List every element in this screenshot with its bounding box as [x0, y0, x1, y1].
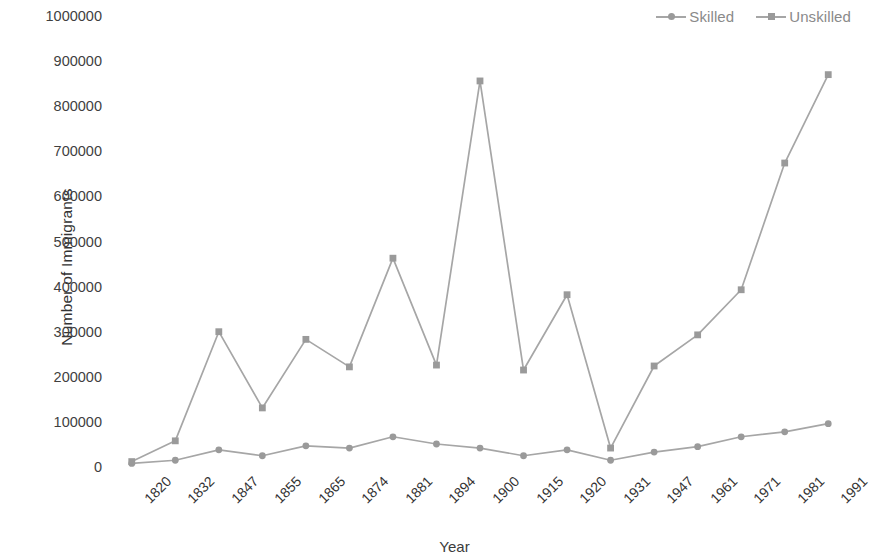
data-point-unskilled[interactable]: [302, 336, 309, 343]
y-tick-label: 800000: [54, 98, 102, 114]
x-tick-label: 1961: [707, 473, 740, 506]
x-tick-label: 1991: [837, 473, 870, 506]
data-point-unskilled[interactable]: [128, 458, 135, 465]
series-line-unskilled: [132, 75, 828, 462]
y-axis-title: Number of Immigrants: [58, 142, 76, 392]
x-tick-label: 1915: [533, 473, 566, 506]
data-point-skilled[interactable]: [433, 441, 440, 448]
data-point-skilled[interactable]: [390, 433, 397, 440]
x-tick-label: 1865: [315, 473, 348, 506]
data-point-skilled[interactable]: [781, 428, 788, 435]
x-tick-label: 1920: [576, 473, 609, 506]
y-tick-label: 200000: [54, 369, 102, 385]
y-tick-label: 700000: [54, 143, 102, 159]
x-tick-label: 1931: [620, 473, 653, 506]
x-axis-title: Year: [0, 538, 865, 555]
data-point-skilled[interactable]: [520, 452, 527, 459]
x-tick-label: 1894: [446, 473, 479, 506]
x-tick-label: 1855: [271, 473, 304, 506]
data-point-unskilled[interactable]: [259, 405, 266, 412]
x-tick-label: 1832: [184, 473, 217, 506]
data-point-skilled[interactable]: [738, 433, 745, 440]
data-point-skilled[interactable]: [302, 442, 309, 449]
data-point-unskilled[interactable]: [738, 286, 745, 293]
data-point-skilled[interactable]: [607, 457, 614, 464]
x-tick-label: 1981: [794, 473, 827, 506]
data-point-unskilled[interactable]: [825, 71, 832, 78]
data-point-skilled[interactable]: [259, 452, 266, 459]
data-point-unskilled[interactable]: [694, 331, 701, 338]
data-point-unskilled[interactable]: [607, 445, 614, 452]
x-tick-label: 1947: [663, 473, 696, 506]
y-tick-label: 1000000: [46, 8, 102, 24]
y-tick-label: 300000: [54, 324, 102, 340]
plot-area: 1000000900000800000700000600000500000400…: [110, 16, 850, 467]
x-tick-label: 1874: [359, 473, 392, 506]
x-axis-title-text: Year: [439, 538, 469, 555]
series-line-skilled: [132, 424, 828, 464]
data-point-skilled[interactable]: [477, 445, 484, 452]
data-point-skilled[interactable]: [651, 449, 658, 456]
x-tick-label: 1847: [228, 473, 261, 506]
data-point-unskilled[interactable]: [433, 362, 440, 369]
data-point-skilled[interactable]: [172, 457, 179, 464]
x-tick-label: 1881: [402, 473, 435, 506]
data-point-skilled[interactable]: [215, 446, 222, 453]
data-point-unskilled[interactable]: [520, 367, 527, 374]
data-point-unskilled[interactable]: [346, 363, 353, 370]
y-tick-label: 500000: [54, 234, 102, 250]
y-tick-label: 600000: [54, 188, 102, 204]
y-tick-label: 400000: [54, 279, 102, 295]
x-tick-label: 1900: [489, 473, 522, 506]
data-point-skilled[interactable]: [564, 446, 571, 453]
data-point-unskilled[interactable]: [477, 78, 484, 85]
data-point-unskilled[interactable]: [390, 255, 397, 262]
data-point-unskilled[interactable]: [215, 328, 222, 335]
x-tick-label: 1971: [750, 473, 783, 506]
x-tick-label: 1820: [141, 473, 174, 506]
data-point-unskilled[interactable]: [781, 160, 788, 167]
y-tick-label: 900000: [54, 53, 102, 69]
data-point-unskilled[interactable]: [172, 437, 179, 444]
data-point-skilled[interactable]: [694, 443, 701, 450]
data-point-skilled[interactable]: [825, 420, 832, 427]
data-point-unskilled[interactable]: [651, 363, 658, 370]
data-point-skilled[interactable]: [346, 445, 353, 452]
series-canvas: [110, 16, 850, 467]
y-tick-label: 0: [94, 459, 102, 475]
y-tick-label: 100000: [54, 414, 102, 430]
data-point-unskilled[interactable]: [564, 291, 571, 298]
